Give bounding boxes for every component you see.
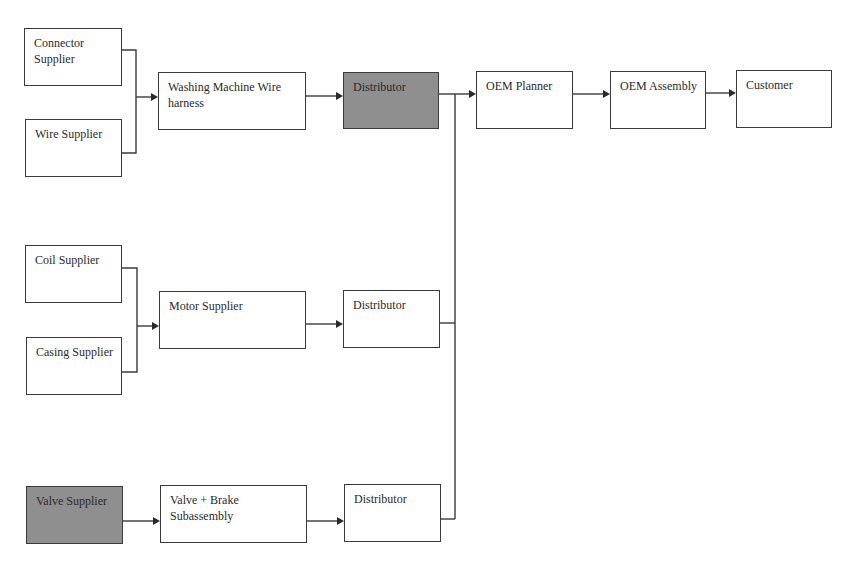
arrowhead bbox=[153, 517, 160, 525]
arrowhead bbox=[151, 93, 158, 101]
arrowhead bbox=[337, 517, 344, 525]
node-motor-supplier: Motor Supplier bbox=[159, 291, 306, 349]
node-distributor-3: Distributor bbox=[344, 484, 441, 542]
node-distributor-2: Distributor bbox=[343, 290, 440, 348]
node-casing-supplier: Casing Supplier bbox=[26, 337, 122, 395]
node-customer: Customer bbox=[736, 70, 832, 128]
edge-coil-to-motor bbox=[122, 268, 137, 326]
node-wire-supplier: Wire Supplier bbox=[25, 119, 122, 177]
arrowhead bbox=[152, 322, 159, 330]
node-distributor-1: Distributor bbox=[343, 72, 439, 129]
edge-casing-to-motor bbox=[122, 326, 137, 372]
arrowhead bbox=[729, 89, 736, 97]
arrowhead bbox=[469, 90, 476, 98]
arrowhead bbox=[336, 320, 343, 328]
node-valve-brake-subassembly: Valve + Brake Subassembly bbox=[160, 485, 307, 543]
edge-connector-to-harness bbox=[122, 50, 136, 97]
node-connector-supplier: Connector Supplier bbox=[24, 28, 122, 86]
node-coil-supplier: Coil Supplier bbox=[25, 245, 122, 303]
edge-wire-to-harness bbox=[122, 97, 136, 153]
arrowhead bbox=[336, 92, 343, 100]
node-valve-supplier: Valve Supplier bbox=[26, 486, 123, 544]
arrowhead bbox=[603, 90, 610, 98]
node-wire-harness: Washing Machine Wire harness bbox=[158, 72, 306, 130]
node-oem-assembly: OEM Assembly bbox=[610, 71, 706, 129]
node-oem-planner: OEM Planner bbox=[476, 71, 573, 129]
